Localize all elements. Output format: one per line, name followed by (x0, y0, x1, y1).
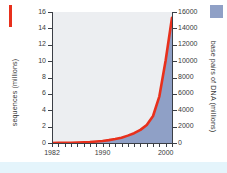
x-axis-tickmark (96, 144, 97, 147)
x-axis-tickmark (166, 144, 167, 147)
x-axis-tickmark (71, 144, 72, 147)
y-axis-left-title: sequences (millions) (10, 45, 19, 141)
area-series-base-pairs (52, 18, 172, 143)
x-axis-tickmark (128, 144, 129, 147)
x-axis-tickmark (115, 144, 116, 147)
y-axis-left-tickmark (48, 61, 52, 62)
y-axis-right-tickmark (173, 94, 177, 95)
x-axis-tick-label: 1990 (88, 149, 118, 156)
legend-red-line-swatch-icon (9, 5, 12, 27)
legend-blue-area-swatch-icon (210, 5, 223, 18)
y-axis-left-tickmark (48, 45, 52, 46)
chart-figure: sequences (millions) base pairs of DNA (… (0, 0, 227, 173)
x-axis-tick-label: 2000 (151, 149, 181, 156)
y-axis-right-tick-label: 12000 (178, 40, 206, 47)
x-axis-tickmark (134, 144, 135, 147)
x-axis-tickmark (90, 144, 91, 147)
y-axis-right-tick-label: 6000 (178, 89, 206, 96)
y-axis-left-tick-label: 12 (24, 40, 46, 47)
bottom-color-band (0, 162, 227, 173)
y-axis-right-tickmark (173, 110, 177, 111)
x-axis-tickmark (52, 144, 53, 147)
y-axis-right-tick-label: 16000 (178, 8, 206, 15)
y-axis-left-tickmark (48, 94, 52, 95)
y-axis-right-tick-label: 14000 (178, 24, 206, 31)
y-axis-right-tick-label: 8000 (178, 73, 206, 80)
x-axis-tickmark (140, 144, 141, 147)
x-axis-tickmark (65, 144, 66, 147)
y-axis-right-tickmark (173, 45, 177, 46)
y-axis-right-tick-label: 10000 (178, 57, 206, 64)
y-axis-right-tickmark (173, 28, 177, 29)
x-axis-tickmark (147, 144, 148, 147)
y-axis-right-title: base pairs of DNA (millions) (209, 39, 218, 135)
y-axis-left-tick-label: 6 (24, 89, 46, 96)
y-axis-right-tickmark (173, 12, 177, 13)
x-axis-tickmark (84, 144, 85, 147)
x-axis-tickmark (172, 144, 173, 147)
y-axis-right-tickmark (173, 143, 177, 144)
y-axis-right-tick-label: 0 (178, 139, 206, 146)
y-axis-right-tick-label: 2000 (178, 122, 206, 129)
x-axis-tickmark (109, 144, 110, 147)
y-axis-left-line (52, 12, 53, 144)
y-axis-left-tickmark (48, 78, 52, 79)
y-axis-right-tick-label: 4000 (178, 106, 206, 113)
data-series-svg (52, 12, 172, 143)
y-axis-left-tick-label: 0 (24, 139, 46, 146)
x-axis-tickmark (77, 144, 78, 147)
y-axis-left-tick-label: 14 (24, 24, 46, 31)
y-axis-right-tickmark (173, 61, 177, 62)
y-axis-left-tick-label: 8 (24, 73, 46, 80)
y-axis-left-tick-label: 16 (24, 8, 46, 15)
y-axis-left-tickmark (48, 110, 52, 111)
y-axis-right-tickmark (173, 127, 177, 128)
x-axis-tick-label: 1982 (37, 149, 67, 156)
x-axis-tickmark (103, 144, 104, 147)
y-axis-left-tickmark (48, 28, 52, 29)
x-axis-tickmark (153, 144, 154, 147)
y-axis-left-tick-label: 2 (24, 122, 46, 129)
y-axis-left-tick-label: 4 (24, 106, 46, 113)
y-axis-right-tickmark (173, 78, 177, 79)
x-axis-tickmark (122, 144, 123, 147)
x-axis-tickmark (58, 144, 59, 147)
y-axis-left-tick-label: 10 (24, 57, 46, 64)
y-axis-left-tickmark (48, 127, 52, 128)
y-axis-left-tickmark (48, 12, 52, 13)
x-axis-tickmark (159, 144, 160, 147)
